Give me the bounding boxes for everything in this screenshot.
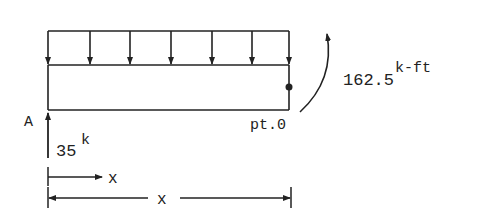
moment-value: 162.5	[343, 71, 394, 90]
beam-free-body-diagram: 162.5 k-ft A 35 k pt.0 x x	[0, 0, 489, 216]
point-0-marker	[286, 84, 293, 91]
beam-segment	[48, 65, 289, 110]
distributed-load	[48, 31, 289, 64]
x-direction-arrow-icon	[48, 167, 102, 186]
reaction-unit: k	[81, 132, 90, 149]
dimension-label: x	[157, 191, 167, 209]
reaction-value: 35	[56, 142, 76, 161]
moment-unit: k-ft	[395, 60, 431, 77]
x-arrow-label: x	[108, 170, 118, 188]
support-label: A	[24, 114, 33, 131]
point-label: pt.0	[250, 117, 286, 134]
moment-arrow-icon	[300, 34, 328, 112]
dimension-line	[48, 187, 291, 208]
